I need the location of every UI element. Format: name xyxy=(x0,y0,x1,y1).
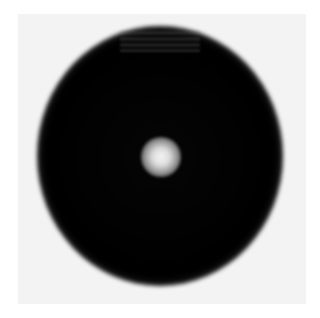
top-banding-artifact xyxy=(120,30,200,52)
bright-center-spot xyxy=(141,137,181,177)
